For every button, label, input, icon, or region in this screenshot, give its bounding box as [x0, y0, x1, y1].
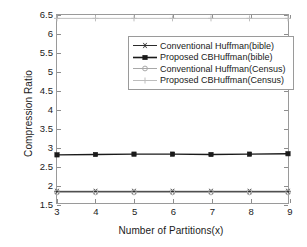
x-tick-label: 7: [202, 206, 222, 217]
x-tick-label: 8: [241, 206, 261, 217]
legend-label: Proposed CBHuffman(bible): [158, 52, 272, 62]
plus-marker: [170, 15, 176, 21]
legend-label: Conventional Huffman(bible): [158, 41, 274, 51]
chart-legend: Conventional Huffman(bible)Proposed CBHu…: [128, 36, 294, 90]
legend-sample: [132, 52, 158, 63]
square-marker: [55, 153, 59, 157]
square-marker: [170, 152, 174, 156]
y-tick-label: 5: [48, 66, 53, 77]
x-tick-mark: [290, 199, 291, 203]
square-marker: [143, 55, 147, 59]
legend-item: Proposed CBHuffman(Census): [129, 75, 293, 87]
x-axis-title: Number of Partitions(x): [49, 225, 293, 236]
legend-sample: [132, 63, 158, 74]
star-marker: [142, 43, 148, 48]
legend-sample: [132, 75, 158, 86]
y-tick-label: 5.5: [40, 47, 53, 58]
x-tick-label: 4: [86, 206, 106, 217]
x-tick-label: 9: [280, 206, 300, 217]
square-marker: [247, 152, 251, 156]
legend-item: Proposed CBHuffman(bible): [129, 52, 293, 64]
y-tick-label: 3.5: [40, 123, 53, 134]
legend-sample: [132, 40, 158, 51]
legend-item: Conventional Huffman(Census): [129, 63, 293, 75]
plus-marker: [142, 77, 148, 83]
square-marker: [93, 152, 97, 156]
y-tick-label: 2: [48, 180, 53, 191]
plus-marker: [131, 15, 137, 21]
chart-figure: Compression Ratio Number of Partitions(x…: [0, 0, 307, 247]
square-marker: [286, 152, 290, 156]
legend-label: Conventional Huffman(Census): [158, 64, 285, 74]
plus-marker: [247, 15, 253, 21]
y-tick-label: 2.5: [40, 161, 53, 172]
y-tick-label: 3: [48, 142, 53, 153]
y-tick-label: 6: [48, 28, 53, 39]
x-tick-label: 3: [47, 206, 67, 217]
y-tick-label: 4: [48, 104, 53, 115]
y-axis-title: Compression Ratio: [23, 34, 34, 194]
square-marker: [132, 152, 136, 156]
plus-marker: [208, 15, 214, 21]
series-1: [55, 152, 290, 157]
x-tick-label: 5: [125, 206, 145, 217]
y-tick-label: 4.5: [40, 85, 53, 96]
plus-marker: [93, 15, 99, 21]
legend-label: Proposed CBHuffman(Census): [158, 75, 284, 85]
square-marker: [209, 152, 213, 156]
plus-marker: [54, 15, 60, 21]
series-0: [54, 189, 291, 194]
series-3: [54, 15, 291, 21]
y-tick-label: 6.5: [40, 9, 53, 20]
legend-item: Conventional Huffman(bible): [129, 40, 293, 52]
x-tick-label: 6: [164, 206, 184, 217]
